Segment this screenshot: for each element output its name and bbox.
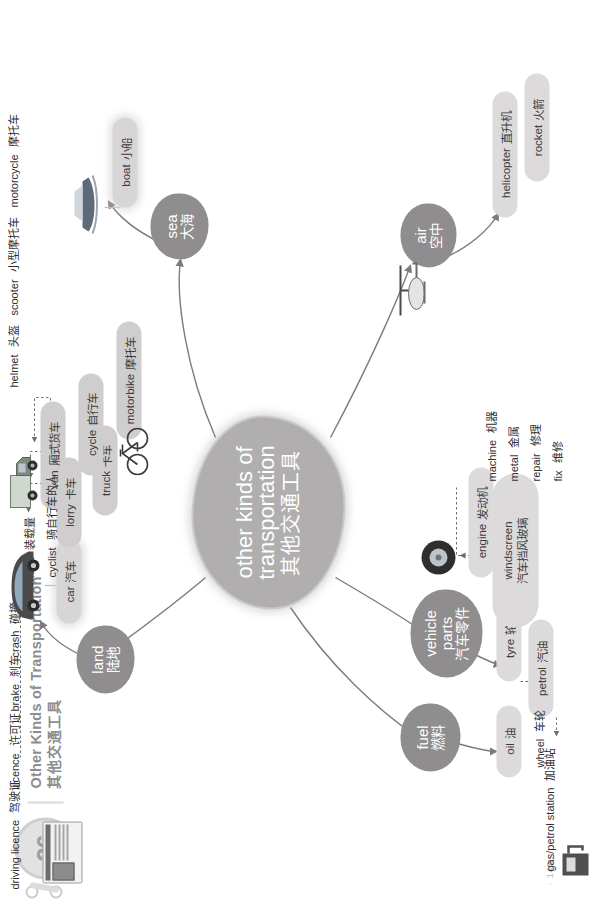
branch-fuel-cn: 燃料 xyxy=(430,724,446,751)
leaf-petrol[interactable]: petrol 汽油 xyxy=(528,619,553,717)
leaf-cycle-en: cycle xyxy=(85,429,97,455)
leaf-helicopter[interactable]: helicopter 直升机 xyxy=(492,91,517,217)
branch-parts-en-line2: parts xyxy=(438,616,454,649)
leaf-lorry-en: lorry xyxy=(63,504,75,526)
wire-car-notes xyxy=(20,605,30,757)
note-wheel-cn: 车轮 xyxy=(533,709,545,731)
branch-vehicle-parts[interactable]: vehicle parts 汽车零件 xyxy=(410,589,482,677)
note-load-cn: 装载量 xyxy=(23,516,35,549)
note-crash-en: crash xyxy=(8,630,20,657)
leaf-petrol-en: petrol xyxy=(535,667,547,696)
note-motorcycle: motorcycle 摩托车 xyxy=(4,114,20,207)
leaf-rocket-en: rocket xyxy=(531,124,543,155)
branch-parts-en-line1: vehicle xyxy=(422,610,438,657)
helicopter-icon xyxy=(392,259,434,321)
leaf-engine[interactable]: engine 发动机 xyxy=(468,467,493,577)
licence-photo-icon xyxy=(52,862,74,880)
leaf-boat-en: boat xyxy=(119,164,131,186)
leaf-motorbike-cn: 摩托车 xyxy=(121,336,137,369)
branch-parts-cn: 汽车零件 xyxy=(454,606,470,660)
note-repair: repair 修理 xyxy=(526,424,542,481)
branch-sea-cn: 大海 xyxy=(179,213,195,240)
leaf-windscreen[interactable]: windscreen 汽车挡风玻璃 xyxy=(492,473,538,627)
note-licence: licence 许可证 xyxy=(5,713,21,787)
leaf-car-en: car xyxy=(63,586,75,602)
car-icon xyxy=(6,547,40,623)
van-photo xyxy=(2,451,48,511)
tyre-icon xyxy=(420,539,456,575)
note-fix: fix 维修 xyxy=(548,441,564,481)
note-machine: machine 机器 xyxy=(482,410,498,481)
leaf-engine-en: engine xyxy=(475,523,487,558)
central-topic-en-line2: transportation xyxy=(255,445,277,580)
wire-hub-fuel xyxy=(290,607,412,733)
note-metal: metal 金属 xyxy=(504,425,520,481)
note-brake-en: brake xyxy=(8,683,20,711)
note-scooter-cn: 小型摩托车 xyxy=(7,217,19,272)
note-motorcycle-en: motorcycle xyxy=(7,154,19,207)
leaf-rocket-cn: 火箭 xyxy=(529,98,545,120)
note-metal-en: metal xyxy=(507,454,519,481)
branch-sea-en: sea xyxy=(163,214,179,238)
central-topic-en-line1: other kinds of xyxy=(233,446,255,578)
note-brake: brake 刹车 xyxy=(5,654,21,711)
leaf-car-cn: 汽车 xyxy=(61,560,77,582)
leaf-petrol-cn: 汽油 xyxy=(533,641,549,663)
note-metal-cn: 金属 xyxy=(507,425,519,447)
leaf-motorbike-en: motorbike xyxy=(123,373,135,424)
note-scooter-en: scooter xyxy=(7,279,19,315)
car-photo xyxy=(6,547,44,623)
fuel-pump-photo xyxy=(556,837,593,879)
note-repair-cn: 修理 xyxy=(529,424,541,446)
branch-land-en: land xyxy=(89,645,105,673)
branch-air-cn: 空中 xyxy=(428,222,444,249)
note-fix-en: fix xyxy=(551,470,563,481)
note-petrol-station-en: gas/petrol station xyxy=(543,787,555,871)
note-machine-cn: 机器 xyxy=(485,410,497,432)
branch-air-en: air xyxy=(412,227,428,244)
note-driving-licence-en: driving licence xyxy=(8,819,20,889)
leaf-motorbike[interactable]: motorbike 摩托车 xyxy=(116,321,141,439)
leaf-engine-cn: 发动机 xyxy=(473,486,489,519)
licence-card-body xyxy=(52,824,74,880)
leaf-rocket[interactable]: rocket 火箭 xyxy=(524,73,549,181)
boat-icon xyxy=(66,173,100,235)
branch-air[interactable]: air 空中 xyxy=(400,203,456,267)
leaf-helicopter-cn: 直升机 xyxy=(497,111,513,144)
wire-hub-sea xyxy=(179,259,215,437)
note-motorcycle-cn: 摩托车 xyxy=(7,114,19,147)
note-helmet: helmet 头盔 xyxy=(4,325,20,387)
fuel-pump-icon xyxy=(556,837,590,879)
note-machine-en: machine xyxy=(485,439,497,481)
licence-card-header-bar xyxy=(45,824,50,880)
tyre-photo xyxy=(420,539,460,575)
licence-line xyxy=(54,824,56,860)
branch-land-cn: 陆地 xyxy=(105,646,121,673)
leaf-helicopter-en: helicopter xyxy=(499,148,511,198)
leaf-oil[interactable]: oil 油 xyxy=(496,705,521,777)
leaf-car[interactable]: car 汽车 xyxy=(56,539,81,623)
driving-licence-card-image xyxy=(42,821,82,883)
branch-sea[interactable]: sea 大海 xyxy=(150,193,208,259)
leaf-tyre-en: tyre xyxy=(503,638,515,657)
leaf-cycle-cn: 自行车 xyxy=(83,392,99,425)
bicycle-icon xyxy=(108,427,150,475)
note-cyclist-en: cyclist xyxy=(45,547,57,577)
licence-line xyxy=(62,824,64,860)
note-licence-en: licence xyxy=(8,753,20,787)
leaf-boat[interactable]: boat 小船 xyxy=(112,117,137,207)
note-repair-en: repair xyxy=(529,453,541,481)
branch-fuel[interactable]: fuel 燃料 xyxy=(400,703,460,771)
note-scooter: scooter 小型摩托车 xyxy=(4,217,20,315)
helicopter-photo xyxy=(392,259,438,321)
leaf-boat-cn: 小船 xyxy=(117,138,133,160)
leaf-oil-en: oil xyxy=(503,743,515,755)
note-wheel: wheel 车轮 xyxy=(530,709,546,767)
note-licence-cn: 许可证 xyxy=(8,713,20,746)
note-wheel-en: wheel xyxy=(533,738,545,767)
leaf-cycle[interactable]: cycle 自行车 xyxy=(78,373,103,475)
licence-line xyxy=(58,824,60,860)
branch-land[interactable]: land 陆地 xyxy=(76,625,134,693)
